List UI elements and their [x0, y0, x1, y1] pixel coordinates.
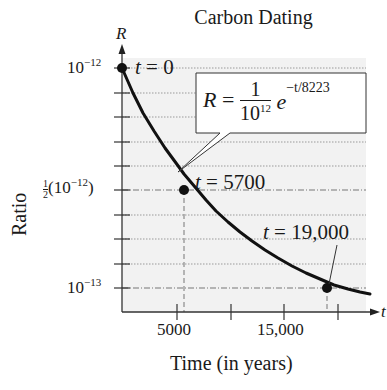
equation-text: R = 11012 e−t/8223 [203, 78, 330, 125]
point-t5700 [179, 185, 189, 195]
x-axis-label: Time (in years) [170, 352, 293, 375]
y-axis-name: R [116, 24, 126, 44]
annotation-t5700: t = 5700 [195, 170, 265, 195]
xtick-label-15000: 15,000 [257, 320, 304, 340]
point-t0 [117, 63, 127, 73]
point-t19000 [322, 283, 332, 293]
chart-title: Carbon Dating [0, 6, 387, 29]
ytick-exp: −12 [84, 56, 101, 68]
x-axis-arrow-icon [370, 309, 380, 316]
y-axis-arrow-icon [119, 44, 126, 54]
ytick-label-1e-13: 10−13 [67, 278, 101, 298]
ytick-base: 10 [67, 58, 84, 77]
y-axis-label: Ratio [8, 193, 31, 236]
ytick-label-half: 12(10−12) [43, 178, 94, 200]
xtick-label-5000: 5000 [157, 320, 191, 340]
ytick-label-1e-12: 10−12 [67, 58, 101, 78]
annotation-t0: t = 0 [135, 55, 174, 80]
annotation-t19000: t = 19,000 [263, 220, 349, 245]
equation-fraction: 11012 [240, 78, 271, 125]
x-axis-name: t [381, 302, 386, 322]
